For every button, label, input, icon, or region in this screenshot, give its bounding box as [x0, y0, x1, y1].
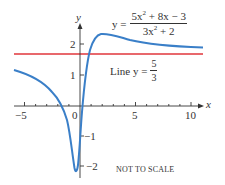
numerator-rest: + 8x − 3 — [146, 10, 186, 22]
x-tick-label: 5 — [132, 110, 138, 121]
equation-fraction: 5x2 + 8x − 3 3x2 + 2 — [130, 10, 186, 37]
y-tick-label: 2 — [70, 39, 76, 50]
x-tick-label: 10 — [185, 110, 196, 121]
x-tick-label: 0 — [72, 110, 78, 121]
asymptote-numerator: 5 — [150, 58, 157, 71]
x-axis-arrow-icon — [198, 104, 204, 109]
asymptote-text: Line y = — [110, 65, 147, 77]
y-axis-arrow-icon — [78, 23, 83, 29]
asymptote-label: Line y = 5 3 — [110, 58, 157, 83]
x-axis — [14, 102, 201, 106]
equation-label: y = 5x2 + 8x − 3 3x2 + 2 — [112, 10, 187, 37]
x-axis-label: x — [206, 99, 211, 110]
y-tick-label: 1 — [70, 70, 76, 81]
denominator-term: 3x — [143, 25, 154, 37]
denominator-rest: + 2 — [157, 25, 174, 37]
not-to-scale-note: NOT TO SCALE — [116, 165, 174, 174]
numerator-term: 5x — [131, 10, 142, 22]
equation-numerator: 5x2 + 8x − 3 — [130, 10, 186, 24]
y-tick-label: −2 — [86, 161, 98, 172]
x-tick-label: −5 — [15, 110, 27, 121]
y-tick-label: −1 — [84, 131, 96, 142]
y-axis-label: y — [76, 12, 81, 23]
equation-lhs: y = — [112, 18, 126, 30]
asymptote-denominator: 3 — [151, 71, 156, 83]
equation-denominator: 3x2 + 2 — [143, 24, 175, 37]
asymptote-fraction: 5 3 — [150, 58, 157, 83]
